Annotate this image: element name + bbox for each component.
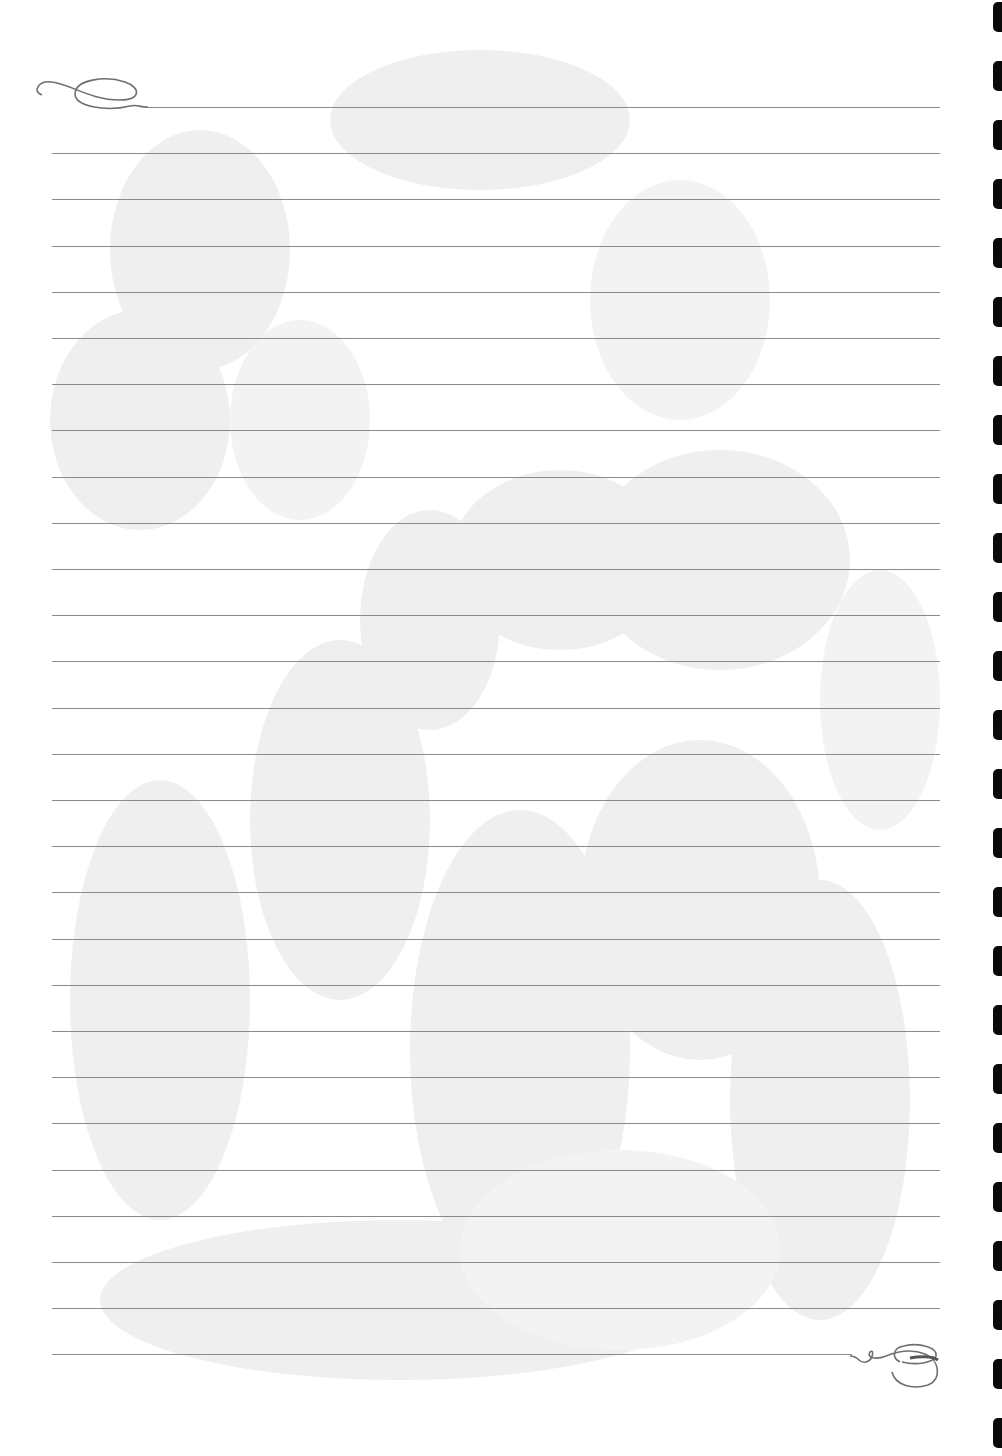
ruled-line (52, 569, 940, 570)
binding-hole (993, 828, 1002, 858)
binding-hole (993, 769, 1002, 799)
binding-hole (993, 1123, 1002, 1153)
binding-hole (993, 120, 1002, 150)
ruled-line (52, 1031, 940, 1032)
binding-holes (990, 0, 1002, 1456)
binding-hole (993, 887, 1002, 917)
ruled-line (148, 107, 940, 108)
binding-hole (993, 651, 1002, 681)
binding-hole (993, 179, 1002, 209)
ruled-line (52, 1216, 940, 1217)
binding-hole (993, 356, 1002, 386)
ruled-line (52, 661, 940, 662)
binding-hole (993, 946, 1002, 976)
ruled-line (52, 246, 940, 247)
ruled-line (52, 939, 940, 940)
binding-hole (993, 1182, 1002, 1212)
ruled-line (52, 892, 940, 893)
binding-hole (993, 297, 1002, 327)
ruled-line (52, 523, 940, 524)
floral-watermark (0, 0, 1002, 1456)
ruled-line (52, 754, 940, 755)
lined-paper-sheet (0, 0, 1002, 1456)
top-left-flourish-icon (30, 70, 160, 120)
ruled-line (52, 800, 940, 801)
bottom-right-flourish-icon (840, 1330, 955, 1400)
binding-hole (993, 1359, 1002, 1389)
binding-hole (993, 1418, 1002, 1448)
ruled-line (52, 477, 940, 478)
binding-hole (993, 592, 1002, 622)
ruled-line (52, 199, 940, 200)
binding-hole (993, 61, 1002, 91)
ruled-line (52, 1077, 940, 1078)
ruled-line (52, 1170, 940, 1171)
binding-hole (993, 1005, 1002, 1035)
binding-hole (993, 710, 1002, 740)
ruled-line (52, 708, 940, 709)
binding-hole (993, 415, 1002, 445)
binding-hole (993, 1241, 1002, 1271)
ruled-line (52, 292, 940, 293)
binding-hole (993, 238, 1002, 268)
binding-hole (993, 1300, 1002, 1330)
ruled-line (52, 384, 940, 385)
ruled-line (52, 1262, 940, 1263)
binding-hole (993, 2, 1002, 32)
ruled-line (52, 1354, 852, 1355)
binding-hole (993, 474, 1002, 504)
ruled-line (52, 338, 940, 339)
ruled-line (52, 846, 940, 847)
ruled-line (52, 1308, 940, 1309)
ruled-line (52, 985, 940, 986)
ruled-line (52, 153, 940, 154)
ruled-line (52, 615, 940, 616)
ruled-line (52, 1123, 940, 1124)
binding-hole (993, 533, 1002, 563)
ruled-line (52, 430, 940, 431)
binding-hole (993, 1064, 1002, 1094)
